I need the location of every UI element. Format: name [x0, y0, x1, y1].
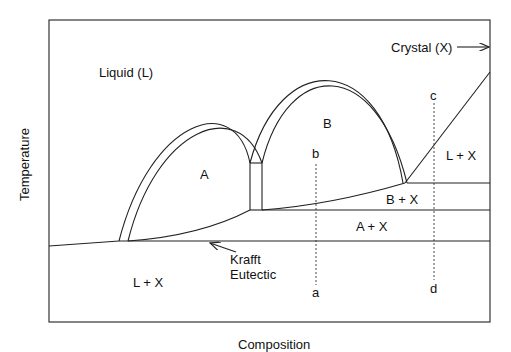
path-b-label: b	[312, 147, 319, 160]
intermediate-phase-box	[250, 163, 262, 210]
liquid-label: Liquid (L)	[99, 66, 153, 79]
a-solidus-curve	[128, 210, 250, 241]
l-plus-x-bottom-label: L + X	[133, 276, 163, 289]
phase-b-label: B	[323, 117, 332, 130]
crystal-label: Crystal (X)	[391, 41, 452, 54]
b-solidus-curve	[262, 183, 405, 210]
krafft-label: Krafft	[230, 253, 261, 266]
dome-a-inner	[128, 128, 262, 241]
eutectic-label: Eutectic	[230, 268, 276, 281]
dome-a-outer	[119, 124, 250, 241]
y-axis-label: Temperature	[17, 125, 32, 205]
b-plus-x-label: B + X	[386, 193, 418, 206]
path-a-label: a	[312, 286, 319, 299]
liquidus-line	[405, 72, 490, 183]
dome-b-inner	[262, 86, 407, 183]
krafft-eutectic-line	[49, 241, 490, 246]
a-plus-x-label: A + X	[356, 220, 387, 233]
x-axis-label: Composition	[238, 338, 310, 351]
path-d-label: d	[430, 282, 437, 295]
krafft-arrow	[210, 243, 236, 252]
l-plus-x-right-label: L + X	[446, 149, 476, 162]
path-c-label: c	[430, 89, 437, 102]
phase-a-label: A	[200, 168, 209, 181]
